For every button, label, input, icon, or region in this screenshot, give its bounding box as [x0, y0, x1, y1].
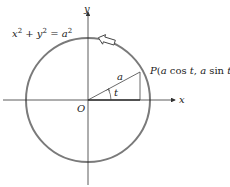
point-label: P(a cos t, a sin t)	[149, 65, 230, 76]
y-axis-label: y	[83, 3, 90, 14]
equation-label: x2 + y2 = a2	[12, 27, 72, 39]
origin-label: O	[77, 103, 85, 114]
circle-diagram: x2 + y2 = a2 y x O P(a cos t, a sin t) a…	[0, 0, 230, 187]
radius-label: a	[117, 71, 123, 82]
angle-label: t	[114, 87, 119, 98]
x-axis-label: x	[179, 94, 185, 105]
direction-arrow-icon	[97, 33, 116, 48]
